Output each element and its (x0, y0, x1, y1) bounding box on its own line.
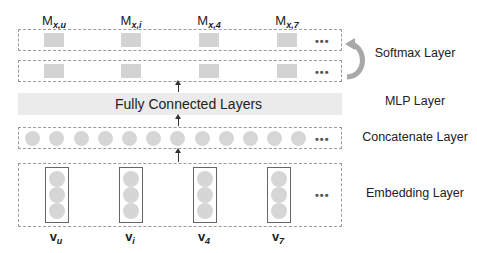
concatenate-layer-label: Concatenate Layer (360, 130, 470, 144)
up-arrow-icon (178, 84, 179, 92)
embedding-unit (123, 203, 139, 219)
ellipsis: ••• (315, 190, 330, 200)
concat-unit (219, 131, 234, 146)
embedding-unit (271, 203, 287, 219)
up-arrow-icon (178, 118, 179, 126)
embedding-unit (49, 171, 65, 187)
embedding-vector-i (119, 167, 143, 223)
embedding-unit (271, 187, 287, 203)
embedding-unit (123, 171, 139, 187)
embedding-unit (123, 187, 139, 203)
concat-unit (49, 131, 64, 146)
fully-connected-layers-label: Fully Connected Layers (115, 96, 262, 112)
output-unit (277, 33, 297, 47)
embedding-row: ••• (18, 163, 342, 227)
concat-unit (122, 131, 137, 146)
embedding-unit (197, 203, 213, 219)
embedding-vector-u (45, 167, 69, 223)
concatenate-row: ••• (18, 127, 342, 149)
up-arrow-icon (178, 152, 179, 162)
input-label-i: vi (115, 229, 145, 246)
concat-unit (267, 131, 282, 146)
ellipsis: ••• (315, 67, 330, 77)
ellipsis: ••• (315, 134, 330, 144)
softmax-layer-label: Softmax Layer (360, 46, 470, 60)
embedding-unit (197, 171, 213, 187)
pre-softmax-row: ••• (18, 60, 342, 82)
concat-unit (98, 131, 113, 146)
output-unit (44, 33, 64, 47)
embedding-unit (197, 187, 213, 203)
concat-unit (291, 131, 306, 146)
output-unit (121, 33, 141, 47)
embedding-vector-4 (193, 167, 217, 223)
concat-unit (195, 131, 210, 146)
logit-unit (277, 64, 297, 78)
input-label-7: v7 (263, 229, 293, 246)
embedding-layer-label: Embedding Layer (360, 186, 470, 200)
logit-unit (121, 64, 141, 78)
concat-unit (25, 131, 40, 146)
softmax-output-row: ••• (18, 29, 342, 51)
embedding-unit (49, 203, 65, 219)
concat-unit (146, 131, 161, 146)
mlp-layer-label: MLP Layer (360, 94, 470, 108)
embedding-vector-7 (267, 167, 291, 223)
logit-unit (199, 64, 219, 78)
concat-unit (243, 131, 258, 146)
concat-unit (74, 131, 89, 146)
input-label-4: v4 (189, 229, 219, 246)
input-label-u: vu (41, 229, 71, 246)
concat-unit (170, 131, 185, 146)
ellipsis: ••• (315, 36, 330, 46)
output-unit (199, 33, 219, 47)
embedding-unit (271, 171, 287, 187)
embedding-unit (49, 187, 65, 203)
logit-unit (44, 64, 64, 78)
